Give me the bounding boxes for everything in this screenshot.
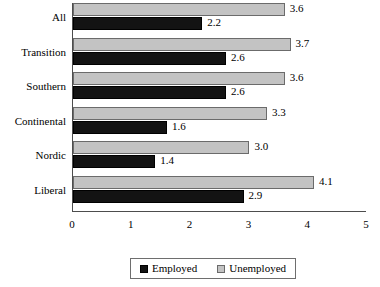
bar-value-unemployed: 3.7 xyxy=(296,36,310,50)
bar-group: 3.62.6 xyxy=(73,72,366,100)
bar-value-employed: 1.6 xyxy=(172,119,186,133)
bar-unemployed xyxy=(73,107,267,120)
bar-row-employed: 2.6 xyxy=(73,86,366,99)
bar-value-employed: 2.2 xyxy=(207,15,221,29)
bar-group: 3.72.6 xyxy=(73,38,366,66)
bar-row-unemployed: 3.0 xyxy=(73,141,366,154)
bar-group: 3.01.4 xyxy=(73,141,366,169)
bar-value-unemployed: 3.0 xyxy=(254,139,268,153)
bar-value-employed: 2.6 xyxy=(231,50,245,64)
employed-swatch-icon xyxy=(140,265,148,273)
bar-group: 3.62.2 xyxy=(73,3,366,31)
legend-item-employed: Employed xyxy=(140,262,197,275)
bar-row-unemployed: 3.6 xyxy=(73,72,366,85)
bar-value-employed: 2.9 xyxy=(249,188,263,202)
category-label: Transition xyxy=(0,46,66,58)
bar-unemployed xyxy=(73,38,291,51)
chart-legend: Employed Unemployed xyxy=(130,258,296,279)
bar-employed xyxy=(73,17,202,30)
bar-value-employed: 2.6 xyxy=(231,84,245,98)
bar-row-unemployed: 3.7 xyxy=(73,38,366,51)
bar-value-unemployed: 3.3 xyxy=(272,105,286,119)
bar-value-unemployed: 3.6 xyxy=(290,1,304,15)
x-tick-label: 0 xyxy=(60,218,84,231)
category-label: Nordic xyxy=(0,149,66,161)
x-tick-label: 5 xyxy=(354,218,378,231)
x-tick-label: 4 xyxy=(295,218,319,231)
bar-employed xyxy=(73,155,155,168)
x-tick-label: 2 xyxy=(178,218,202,231)
legend-label-employed: Employed xyxy=(152,262,197,275)
category-label: All xyxy=(0,11,66,23)
category-label: Liberal xyxy=(0,184,66,196)
bar-row-employed: 1.4 xyxy=(73,155,366,168)
bar-group: 4.12.9 xyxy=(73,176,366,204)
x-axis-line xyxy=(72,211,366,212)
category-label: Continental xyxy=(0,115,66,127)
bar-row-unemployed: 3.3 xyxy=(73,107,366,120)
bar-unemployed xyxy=(73,3,285,16)
legend-item-unemployed: Unemployed xyxy=(217,262,286,275)
grouped-bar-chart: 3.62.23.72.63.62.63.31.63.01.44.12.9 All… xyxy=(0,0,380,287)
x-tick-label: 3 xyxy=(236,218,260,231)
bar-employed xyxy=(73,121,167,134)
plot-area: 3.62.23.72.63.62.63.31.63.01.44.12.9 xyxy=(72,3,366,212)
bar-unemployed xyxy=(73,72,285,85)
bar-employed xyxy=(73,190,244,203)
unemployed-swatch-icon xyxy=(217,265,225,273)
bar-value-unemployed: 4.1 xyxy=(319,174,333,188)
bar-row-unemployed: 4.1 xyxy=(73,176,366,189)
x-tick-label: 1 xyxy=(119,218,143,231)
bar-value-employed: 1.4 xyxy=(160,153,174,167)
bar-unemployed xyxy=(73,176,314,189)
bar-employed xyxy=(73,86,226,99)
bar-employed xyxy=(73,52,226,65)
bar-row-employed: 1.6 xyxy=(73,121,366,134)
bar-row-employed: 2.6 xyxy=(73,52,366,65)
bar-group: 3.31.6 xyxy=(73,107,366,135)
bar-row-employed: 2.9 xyxy=(73,190,366,203)
bar-value-unemployed: 3.6 xyxy=(290,70,304,84)
bar-row-employed: 2.2 xyxy=(73,17,366,30)
legend-label-unemployed: Unemployed xyxy=(229,262,286,275)
category-label: Southern xyxy=(0,80,66,92)
